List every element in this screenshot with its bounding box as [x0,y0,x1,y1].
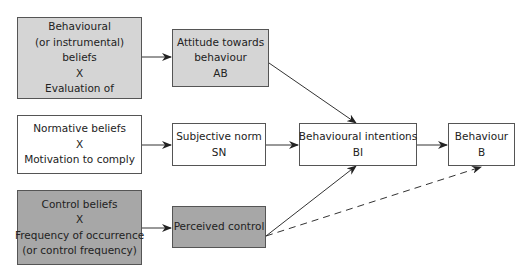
behavioural-intentions-box: Behavioural intentions BI [299,123,417,166]
node-text: (or control frequency) [22,243,137,259]
node-text: Behavioural [48,19,111,35]
node-text: (or instrumental) [35,35,124,51]
node-text: behaviour [194,50,247,66]
node-text: Attitude towards [177,35,264,51]
arrow-pc-to-bi [266,166,356,236]
node-text: SN [212,145,227,161]
node-text: Perceived control [174,219,265,235]
node-text: Frequency of occurrence [15,228,144,244]
node-text: Motivation to comply [24,152,135,168]
control-beliefs-box: Control beliefs X Frequency of occurrenc… [17,190,142,265]
node-text: Behaviour [455,129,508,145]
attitude-box: Attitude towards behaviour AB [172,29,269,87]
node-text: X [76,137,83,153]
node-text: beliefs [62,50,97,66]
node-text: B [478,145,485,161]
node-text: Control beliefs [42,197,118,213]
subjective-norm-box: Subjective norm SN [172,123,266,166]
node-text: X [76,212,83,228]
node-text: AB [213,66,227,82]
node-text: X [76,66,83,82]
behaviour-box: Behaviour B [448,123,515,166]
node-text: Evaluation of [45,81,114,97]
dashed-arrow-pc-to-behaviour [266,167,481,236]
arrow-attitude-to-bi [269,63,356,123]
behavioural-beliefs-box: Behavioural (or instrumental) beliefs X … [17,17,142,99]
normative-beliefs-box: Normative beliefs X Motivation to comply [17,115,142,174]
node-text: Normative beliefs [33,121,126,137]
node-text: BI [353,145,363,161]
node-text: Behavioural intentions [299,129,417,145]
node-text: Subjective norm [176,129,262,145]
perceived-control-box: Perceived control [172,206,266,248]
